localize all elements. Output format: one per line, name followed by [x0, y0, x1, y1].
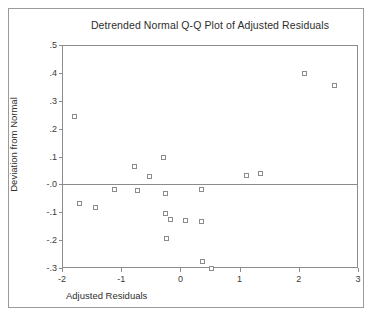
data-point	[258, 171, 263, 176]
y-tick-label: -.1	[46, 207, 57, 217]
x-tick	[62, 268, 63, 272]
zero-reference-line	[62, 184, 358, 185]
x-tick-label: -2	[58, 274, 66, 284]
y-tick	[59, 184, 63, 185]
y-tick	[59, 45, 63, 46]
y-tick-label: .1	[49, 152, 57, 162]
data-point	[147, 174, 152, 179]
data-point	[77, 201, 82, 206]
x-tick-label: 3	[355, 274, 360, 284]
data-point	[161, 155, 166, 160]
data-point	[302, 71, 307, 76]
data-point	[168, 217, 173, 222]
data-point	[132, 164, 137, 169]
y-tick	[59, 157, 63, 158]
data-point	[164, 236, 169, 241]
data-point	[209, 266, 214, 271]
y-tick-label: -.3	[46, 263, 57, 273]
x-tick	[299, 268, 300, 272]
y-axis-title: Deviation from Normal	[8, 60, 19, 230]
x-axis-title: Adjusted Residuals	[66, 290, 147, 301]
chart-title: Detrended Normal Q-Q Plot of Adjusted Re…	[62, 19, 358, 31]
figure: Detrended Normal Q-Q Plot of Adjusted Re…	[0, 0, 378, 328]
x-tick	[358, 268, 359, 272]
data-point	[200, 259, 205, 264]
y-tick	[59, 240, 63, 241]
y-tick	[59, 129, 63, 130]
y-tick-label: -.2	[46, 235, 57, 245]
x-tick-label: 0	[178, 274, 183, 284]
y-tick-label: .2	[49, 124, 57, 134]
y-tick	[59, 73, 63, 74]
x-tick	[240, 268, 241, 272]
data-point	[199, 219, 204, 224]
y-tick-label: .5	[49, 40, 57, 50]
x-tick-label: 1	[237, 274, 242, 284]
data-point	[332, 83, 337, 88]
plot-frame	[62, 45, 358, 268]
data-point	[163, 211, 168, 216]
data-point	[183, 218, 188, 223]
x-tick	[121, 268, 122, 272]
y-tick-label: -.0	[46, 179, 57, 189]
data-point	[93, 205, 98, 210]
y-tick-label: .3	[49, 96, 57, 106]
data-point	[244, 173, 249, 178]
x-tick	[180, 268, 181, 272]
plot-area: .5.4.3.2.1-.0-.1-.2-.3 -2-10123	[62, 45, 358, 268]
data-point	[163, 191, 168, 196]
data-point	[135, 188, 140, 193]
data-point	[112, 187, 117, 192]
x-tick-label: -1	[117, 274, 125, 284]
y-tick-label: .4	[49, 68, 57, 78]
x-tick-label: 2	[296, 274, 301, 284]
y-tick	[59, 212, 63, 213]
data-point	[72, 114, 77, 119]
data-point	[199, 187, 204, 192]
y-tick	[59, 101, 63, 102]
